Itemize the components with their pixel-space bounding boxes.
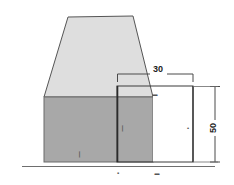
dimension-50-group: 50: [193, 86, 220, 162]
tick-mark-bottom-left: ▪: [117, 170, 119, 176]
dimension-30-label: 30: [153, 64, 163, 74]
trapezoid-top-face: [44, 16, 153, 97]
tick-mark-bottom-right: ▬: [155, 170, 160, 176]
diagram-svg-surface: 30 50 • ▬ ❘ ❘ ▪ ▬: [0, 0, 234, 185]
tick-mark-front-face: ❘: [120, 125, 125, 132]
tick-mark-overlay-top: ▬: [153, 91, 158, 97]
rectangle-front-face: [44, 97, 153, 162]
white-measurement-rectangle-fill: [153, 86, 193, 162]
tick-mark-front-bottom: ❘: [77, 151, 82, 158]
dimension-50-label: 50: [208, 123, 218, 133]
dimension-inner-vertical-tick: •: [187, 125, 189, 131]
technical-diagram-canvas: 30 50 • ▬ ❘ ❘ ▪ ▬: [0, 0, 234, 185]
